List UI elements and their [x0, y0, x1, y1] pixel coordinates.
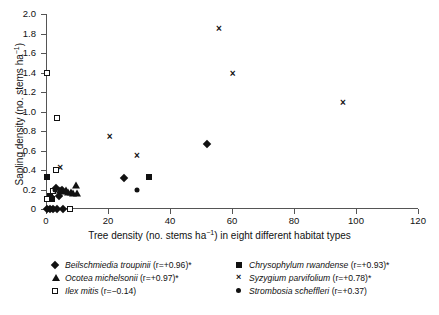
- x-axis-tick: [418, 209, 419, 214]
- legend-label: Chrysophylum rwandense (r=+0.93)*: [249, 260, 389, 270]
- y-axis-tick-label: 1.8: [2, 29, 36, 39]
- y-axis-tick-label: 0.4: [2, 165, 36, 175]
- legend-label: Beilschmiedia troupinii (r=+0.96)*: [65, 260, 192, 270]
- y-axis-tick-label: 0.6: [2, 146, 36, 156]
- legend-marker-diamond-icon: [52, 260, 63, 270]
- y-axis-tick-label: 0.8: [2, 126, 36, 136]
- x-axis-title-text: Tree density (no. stems ha: [88, 230, 206, 241]
- data-point-cross: ×: [105, 131, 114, 140]
- x-axis-tick-label: 80: [279, 216, 309, 226]
- legend-item: ×Syzygium parvifolium (r=+0.78)*: [236, 271, 436, 284]
- data-point-diamond: [202, 139, 210, 147]
- data-point-cross: ×: [228, 69, 237, 78]
- data-point-diamond: [120, 174, 128, 182]
- legend-item: Beilschmiedia troupinii (r=+0.96)*: [52, 258, 230, 271]
- scatter-plot-figure: Sapling density (no. stems ha−1) 00.20.4…: [0, 0, 439, 315]
- x-axis-tick-label: 40: [155, 216, 185, 226]
- legend-marker-cross-icon: ×: [236, 273, 247, 283]
- x-axis-tick-label: 120: [403, 216, 433, 226]
- x-axis-tick: [356, 209, 357, 214]
- data-point-cross: ×: [132, 151, 141, 160]
- data-point-triangle: [73, 190, 81, 197]
- legend-marker-open-square-icon: [52, 286, 63, 296]
- x-axis-tick: [232, 209, 233, 214]
- data-point-open-square: [54, 115, 60, 121]
- data-point-circle: [53, 187, 58, 192]
- x-axis-title-exponent: −1: [206, 229, 214, 236]
- x-axis-tick-label: 60: [217, 216, 247, 226]
- legend-label: Strombosia scheffleri (r=+0.37): [249, 286, 367, 296]
- y-axis-title-suffix: ): [14, 43, 25, 46]
- legend-marker-triangle-icon: [52, 273, 63, 283]
- legend-item: Strombosia scheffleri (r=+0.37): [236, 284, 436, 297]
- legend-item: Ilex mitis (r=−0.14): [52, 284, 230, 297]
- y-axis-tick-label: 1.2: [2, 87, 36, 97]
- y-axis-tick-label: 0.2: [2, 185, 36, 195]
- x-axis-tick: [294, 209, 295, 214]
- x-axis-tick: [170, 209, 171, 214]
- legend-label: Ocotea michelsonii (r=+0.97)*: [65, 273, 179, 283]
- data-point-circle: [50, 196, 55, 201]
- data-point-open-square: [67, 206, 73, 212]
- data-point-square: [146, 174, 152, 180]
- legend-marker-square-icon: [236, 260, 247, 270]
- data-point-circle: [134, 187, 139, 192]
- y-axis-tick-label: 1.6: [2, 48, 36, 58]
- data-point-circle: [52, 207, 57, 212]
- data-point-cross: ×: [338, 97, 347, 106]
- data-point-cross: ×: [42, 172, 51, 181]
- x-axis-title: Tree density (no. stems ha−1) in eight d…: [0, 229, 439, 241]
- data-point-open-square: [53, 167, 59, 173]
- y-axis-tick-label: 0: [2, 204, 36, 214]
- y-axis-tick-label: 1.0: [2, 107, 36, 117]
- x-axis-tick-label: 20: [93, 216, 123, 226]
- legend-label: Syzygium parvifolium (r=+0.78)*: [249, 273, 371, 283]
- legend: Beilschmiedia troupinii (r=+0.96)*Chryso…: [52, 258, 432, 297]
- legend-marker-circle-icon: [236, 286, 247, 296]
- data-point-triangle: [72, 181, 80, 188]
- plot-data-area: ×××××××: [46, 14, 418, 209]
- x-axis-tick-label: 100: [341, 216, 371, 226]
- x-axis-tick: [108, 209, 109, 214]
- legend-item: Chrysophylum rwandense (r=+0.93)*: [236, 258, 436, 271]
- data-point-cross: ×: [214, 23, 223, 32]
- legend-label: Ilex mitis (r=−0.14): [65, 286, 136, 296]
- x-axis-title-suffix: ) in eight different habitat types: [214, 230, 351, 241]
- legend-item: Ocotea michelsonii (r=+0.97)*: [52, 271, 230, 284]
- data-point-open-square: [44, 70, 50, 76]
- x-axis-tick-label: 0: [31, 216, 61, 226]
- y-axis-tick-label: 1.4: [2, 68, 36, 78]
- y-axis-tick-label: 2.0: [2, 9, 36, 19]
